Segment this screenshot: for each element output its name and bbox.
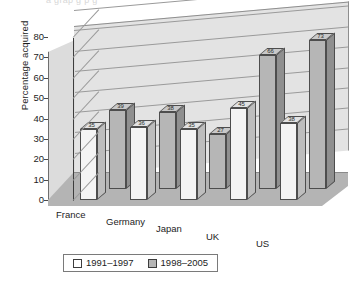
legend-label: 1991–1997 xyxy=(86,258,134,268)
y-tick-label: 30 xyxy=(22,134,44,143)
bar-germany-series2: 38 xyxy=(159,104,176,189)
bar-value-label: 45 xyxy=(233,101,250,107)
bar-value-label: 73 xyxy=(312,33,329,39)
bar-value-label: 35 xyxy=(183,122,200,128)
bar-side-face xyxy=(326,33,335,189)
y-axis-tick-labels: 01020304050607080 xyxy=(22,26,48,200)
bar-chart: a grap g p g Percentage acquired 0102030… xyxy=(0,0,362,286)
bar-side-face xyxy=(97,121,106,200)
legend-swatch-white xyxy=(73,259,82,268)
y-tick-label: 40 xyxy=(22,114,44,123)
bar-us-series1: 38 xyxy=(280,115,297,200)
bar-front-face xyxy=(230,108,247,200)
y-tick-label: 60 xyxy=(22,73,44,82)
bar-front-face xyxy=(309,40,326,189)
bar-value-label: 38 xyxy=(162,105,179,111)
bar-front-face xyxy=(209,134,226,189)
y-tick-label: 10 xyxy=(22,175,44,184)
category-label-uk: UK xyxy=(206,231,219,242)
legend-item-2: 1998–2005 xyxy=(148,258,209,268)
bar-us-series2: 73 xyxy=(309,32,326,189)
category-label-france: France xyxy=(56,209,86,220)
bar-front-face xyxy=(280,123,297,200)
bar-france-series2: 39 xyxy=(109,102,126,189)
bar-value-label: 66 xyxy=(262,48,279,54)
bar-front-face xyxy=(180,129,197,200)
bar-side-face xyxy=(197,121,206,200)
y-tick-label: 80 xyxy=(22,32,44,41)
bar-uk-series2: 66 xyxy=(259,47,276,189)
category-label-japan: Japan xyxy=(156,223,182,234)
bar-value-label: 38 xyxy=(283,116,300,122)
legend: 1991–19971998–2005 xyxy=(63,254,218,272)
bar-side-face xyxy=(297,115,306,200)
bar-value-label: 27 xyxy=(212,127,229,133)
bar-side-face xyxy=(247,101,256,200)
bar-value-label: 39 xyxy=(112,103,129,109)
y-tick-label: 0 xyxy=(22,195,44,204)
y-tick-label: 70 xyxy=(22,52,44,61)
legend-label: 1998–2005 xyxy=(161,258,209,268)
bar-front-face xyxy=(130,127,147,200)
bar-germany-series1: 36 xyxy=(130,119,147,200)
bar-japan-series2: 27 xyxy=(209,126,226,189)
category-label-us: US xyxy=(256,238,269,249)
bar-side-face xyxy=(147,119,156,200)
y-tick-label: 50 xyxy=(22,93,44,102)
bar-japan-series1: 35 xyxy=(180,121,197,200)
legend-swatch-gray xyxy=(148,259,157,268)
category-label-germany: Germany xyxy=(106,216,145,227)
plot-area: 35393638352745663873 xyxy=(48,26,348,200)
bar-front-face xyxy=(109,110,126,189)
bar-uk-series1: 45 xyxy=(230,100,247,200)
bar-front-face xyxy=(159,112,176,189)
bar-value-label: 36 xyxy=(133,120,150,126)
bar-front-face xyxy=(259,55,276,189)
legend-item-1: 1991–1997 xyxy=(73,258,134,268)
y-tick-label: 20 xyxy=(22,154,44,163)
